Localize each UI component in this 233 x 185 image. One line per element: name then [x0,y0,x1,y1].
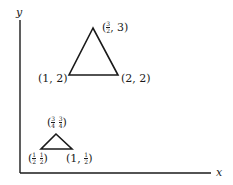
small-triangle [41,134,72,149]
denominator: 2 [32,159,36,165]
label-part: (1, [66,152,84,165]
label-large-right: (2, 2) [121,73,151,84]
label-large-left: (1, 2) [38,73,68,84]
label-part: ) [88,152,92,165]
x-axis-label: x [216,166,222,179]
label-large-apex: (32, 3) [102,21,128,34]
label-small-right: (1, 12) [66,152,92,165]
label-part: , 3) [110,21,128,34]
label-small-left: (12 12) [28,152,48,165]
denominator: 4 [59,123,63,129]
y-axis-label: y [16,6,22,19]
label-small-apex: (34 34) [47,116,67,129]
fraction: 12 [32,152,36,165]
large-triangle [69,28,118,75]
denominator: 2 [40,159,44,165]
fraction: 34 [51,116,55,129]
fraction: 12 [40,152,44,165]
fraction: 34 [59,116,63,129]
denominator: 4 [51,123,55,129]
